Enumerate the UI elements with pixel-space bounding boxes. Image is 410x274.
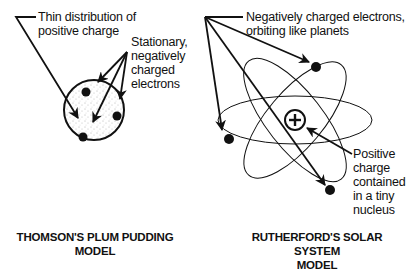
label-line: charged: [131, 63, 188, 77]
thomson-positive-charge-label: Thin distribution of positive charge: [38, 10, 136, 38]
electron-icon: [224, 134, 234, 144]
electron-icon: [325, 185, 335, 195]
label-line: charge: [353, 161, 405, 175]
label-line: positive charge: [38, 24, 136, 38]
title-line: MODEL: [232, 258, 402, 272]
electron-icon: [79, 133, 88, 142]
label-line: orbiting like planets: [246, 24, 405, 38]
electron-icon: [311, 62, 321, 72]
rutherford-electrons-label: Negatively charged electrons, orbiting l…: [246, 10, 405, 38]
label-line: negatively: [131, 49, 188, 63]
thomson-electrons-label: Stationary, negatively charged electrons: [131, 35, 188, 91]
label-line: electrons: [131, 77, 188, 91]
electron-pointer-arrow: [205, 17, 222, 130]
rutherford-nucleus-label: Positive charge contained in a tiny nucl…: [353, 147, 405, 217]
rutherford-model: [205, 17, 372, 196]
label-line: in a tiny: [353, 189, 405, 203]
title-line: RUTHERFORD'S SOLAR SYSTEM: [232, 230, 402, 258]
label-line: contained: [353, 175, 405, 189]
electron-icon: [82, 88, 91, 97]
label-line: nucleus: [353, 203, 405, 217]
title-line: MODEL: [10, 244, 180, 258]
rutherford-model-title: RUTHERFORD'S SOLAR SYSTEM MODEL: [232, 230, 402, 272]
label-line: Stationary,: [131, 35, 188, 49]
electron-icon: [113, 112, 122, 121]
title-line: THOMSON'S PLUM PUDDING: [10, 230, 180, 244]
label-line: Thin distribution of: [38, 10, 136, 24]
label-line: Negatively charged electrons,: [246, 10, 405, 24]
thomson-model-title: THOMSON'S PLUM PUDDING MODEL: [10, 230, 180, 258]
label-line: Positive: [353, 147, 405, 161]
